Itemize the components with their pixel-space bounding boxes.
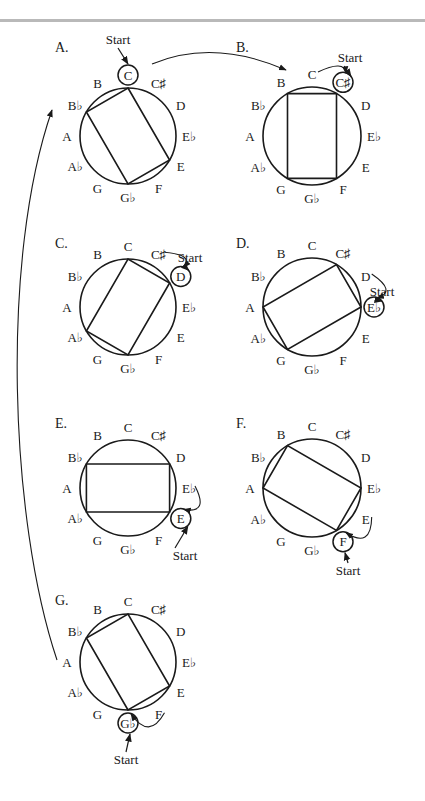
start-label: Start — [336, 563, 361, 578]
panel-f: F.CC♯DE♭EFG♭GA♭AB♭BStart — [236, 416, 381, 578]
pitch-label: D — [361, 269, 370, 284]
pitch-label: F — [155, 181, 162, 196]
panel-label: G. — [55, 593, 69, 608]
pitch-label: C — [124, 594, 133, 609]
pitch-label: E♭ — [182, 129, 196, 144]
pitch-label: B♭ — [68, 624, 83, 639]
pitch-clock-circle — [80, 88, 176, 184]
pitch-label: A — [245, 129, 255, 144]
start-label: Start — [173, 548, 198, 563]
pitch-label: G♭ — [120, 542, 136, 557]
pitch-label: A — [245, 300, 255, 315]
panel-d: D.CC♯DE♭EFG♭GA♭AB♭BStart — [236, 236, 395, 377]
start-pointer-arrow — [126, 734, 130, 752]
panel-label: F. — [236, 416, 246, 431]
pitch-label: E — [362, 331, 370, 346]
pitch-label: F — [339, 182, 346, 197]
start-label: Start — [178, 250, 203, 265]
pitch-label: G♭ — [304, 362, 320, 377]
inscribed-rectangle — [263, 265, 361, 350]
pitch-label: B♭ — [68, 450, 83, 465]
connector-arrows — [17, 53, 286, 660]
panel-b: B.CC♯DE♭EFG♭GA♭AB♭BStart — [236, 40, 381, 206]
pitch-label: C — [308, 419, 317, 434]
pitch-label: B — [277, 75, 286, 90]
pitch-label: A — [62, 655, 72, 670]
start-pointer-arrow — [345, 553, 348, 563]
pitch-label: F — [339, 534, 346, 549]
pitch-label: A♭ — [251, 331, 267, 346]
pitch-label: B — [277, 246, 286, 261]
pitch-label: A♭ — [67, 511, 83, 526]
pitch-label: F — [155, 707, 162, 722]
pitch-label: G♭ — [120, 190, 136, 205]
pitch-label: A — [245, 481, 255, 496]
pitch-label: B♭ — [68, 98, 83, 113]
pitch-label: B♭ — [251, 269, 266, 284]
panel-label: A. — [55, 40, 69, 55]
panel-label: D. — [236, 236, 250, 251]
pitch-label: F — [339, 353, 346, 368]
pitch-label: A♭ — [67, 330, 83, 345]
pitch-label: G — [276, 534, 285, 549]
pitch-label: D — [176, 98, 185, 113]
pitch-label: C — [308, 67, 317, 82]
start-pointer-arrow — [118, 48, 128, 64]
pitch-label: G♭ — [304, 543, 320, 558]
pitch-label: E — [362, 512, 370, 527]
arrow-a-to-b — [152, 53, 286, 70]
pitch-label: A♭ — [251, 160, 267, 175]
pitch-clock-circle — [80, 259, 176, 355]
pitch-label: E♭ — [182, 300, 196, 315]
start-label: Start — [370, 284, 395, 299]
start-label: Start — [106, 32, 131, 47]
pitch-label: B — [277, 427, 286, 442]
pitch-label: E — [177, 511, 185, 526]
start-label: Start — [338, 50, 363, 65]
inscribed-rectangle — [263, 446, 361, 531]
pitch-label: A — [62, 481, 72, 496]
pitch-label: D — [176, 269, 185, 284]
pitch-clock-circle — [80, 614, 176, 710]
pitch-label: B♭ — [68, 269, 83, 284]
pitch-label: B♭ — [251, 98, 266, 113]
pitch-label: F — [155, 533, 162, 548]
pitch-label: C — [308, 238, 317, 253]
inscribed-rectangle — [86, 614, 169, 710]
pitch-label: C — [124, 420, 133, 435]
panels: A.CC♯DE♭EFG♭GA♭AB♭BStartB.CC♯DE♭EFG♭GA♭A… — [55, 32, 395, 767]
pitch-label: B — [93, 247, 102, 262]
panel-label: B. — [236, 40, 249, 55]
panel-label: E. — [55, 416, 67, 431]
pitch-clock-circle — [80, 440, 176, 536]
pitch-label: C♯ — [151, 602, 166, 617]
pitch-clock-circle — [263, 258, 361, 356]
inscribed-rectangle — [86, 464, 169, 512]
start-pointer-arrow — [175, 527, 188, 549]
pitch-label: C♯ — [151, 428, 166, 443]
pitch-label: B — [93, 76, 102, 91]
pitch-label: B — [93, 602, 102, 617]
panel-a: A.CC♯DE♭EFG♭GA♭AB♭BStart — [55, 32, 196, 205]
pitch-label: E♭ — [367, 481, 381, 496]
pitch-label: E — [177, 159, 185, 174]
pitch-label: F — [155, 352, 162, 367]
start-label: Start — [114, 752, 139, 767]
pitch-label: G♭ — [304, 191, 320, 206]
pitch-label: G♭ — [120, 361, 136, 376]
inscribed-rectangle — [288, 94, 337, 179]
pitch-label: A♭ — [67, 685, 83, 700]
pitch-label: C♯ — [335, 75, 350, 90]
panel-g: G.CC♯DE♭EFG♭GA♭AB♭BStart — [55, 593, 196, 767]
pitch-clock-circle — [263, 439, 361, 537]
pitch-label: C♯ — [151, 247, 166, 262]
pitch-label: G — [93, 181, 102, 196]
pitch-label: C — [124, 68, 133, 83]
pitch-label: E♭ — [182, 481, 196, 496]
pitch-label: A♭ — [251, 512, 267, 527]
panel-e: E.CC♯DE♭EFG♭GA♭AB♭BStart — [55, 416, 200, 563]
inscribed-rectangle — [86, 259, 169, 355]
pitch-label: A♭ — [67, 159, 83, 174]
pitch-label: E♭ — [182, 655, 196, 670]
pitch-label: C♯ — [335, 246, 350, 261]
